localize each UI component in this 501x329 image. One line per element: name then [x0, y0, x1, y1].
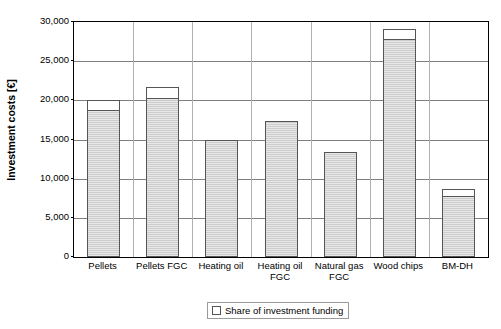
bar-segment-own-investment[interactable] [442, 196, 475, 257]
plot-area [73, 21, 489, 258]
bar-segment-own-investment[interactable] [146, 98, 179, 257]
category-separator [311, 22, 312, 257]
x-axis-tick-label-line: FGC [310, 271, 369, 282]
bar-segment-own-investment[interactable] [87, 110, 120, 257]
category-separator [133, 22, 134, 257]
bar-group[interactable] [205, 22, 238, 257]
x-axis-tick-labels: PelletsPellets FGCHeating oilHeating oil… [73, 260, 487, 294]
y-axis-tick-label: 10,000 [9, 173, 69, 183]
category-separator [251, 22, 252, 257]
x-axis-tick-label-line: Pellets [73, 260, 132, 271]
bar-group[interactable] [324, 22, 357, 257]
x-axis-tick-label-line: BM-DH [428, 260, 487, 271]
bar-group[interactable] [87, 22, 120, 257]
bar-group[interactable] [265, 22, 298, 257]
y-axis-tick-label: 0 [9, 251, 69, 261]
bar-chart: Investment costs [€] 05,00010,00015,0002… [0, 0, 501, 329]
x-axis-tick-label: Pellets FGC [132, 260, 191, 271]
x-axis-tick-label-line: Pellets FGC [132, 260, 191, 271]
legend: Share of investment funding [207, 302, 349, 319]
x-axis-tick-label: BM-DH [428, 260, 487, 271]
x-axis-tick-label: Heating oil [191, 260, 250, 271]
category-separator [370, 22, 371, 257]
bar-segment-own-investment[interactable] [265, 121, 298, 257]
y-axis-tick-label: 20,000 [9, 94, 69, 104]
y-axis-tick-label: 30,000 [9, 16, 69, 26]
bar-segment-own-investment[interactable] [324, 152, 357, 257]
y-axis-tick-label: 15,000 [9, 134, 69, 144]
category-separator [429, 22, 430, 257]
plot-inner [74, 22, 488, 257]
x-axis-tick-label: Heating oilFGC [250, 260, 309, 282]
x-axis-tick-label: Wood chips [369, 260, 428, 271]
y-axis-tick-labels: 05,00010,00015,00020,00025,00030,000 [3, 0, 69, 329]
bar-group[interactable] [383, 22, 416, 257]
x-axis-tick-label-line: Heating oil [250, 260, 309, 271]
category-separator [192, 22, 193, 257]
legend-label-funding: Share of investment funding [225, 305, 343, 316]
bar-group[interactable] [146, 22, 179, 257]
legend-swatch-funding-icon [212, 306, 221, 315]
x-axis-tick-label-line: FGC [250, 271, 309, 282]
y-axis-tick-label: 25,000 [9, 55, 69, 65]
y-axis-tick-label: 5,000 [9, 212, 69, 222]
bar-segment-own-investment[interactable] [205, 140, 238, 258]
x-axis-tick-label-line: Wood chips [369, 260, 428, 271]
bar-group[interactable] [442, 22, 475, 257]
x-axis-tick-label-line: Heating oil [191, 260, 250, 271]
x-axis-tick-label-line: Natural gas [310, 260, 369, 271]
x-axis-tick-label: Natural gasFGC [310, 260, 369, 282]
x-axis-tick-label: Pellets [73, 260, 132, 271]
bar-segment-own-investment[interactable] [383, 39, 416, 257]
